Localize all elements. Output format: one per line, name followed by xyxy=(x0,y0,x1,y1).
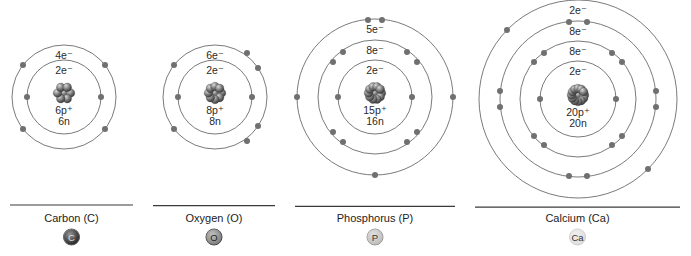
element-symbol-badge: Ca xyxy=(570,229,586,245)
nucleus-icon xyxy=(53,83,75,103)
shell-electron-count: 8e⁻ xyxy=(569,45,587,57)
neutron-count: 8n xyxy=(209,115,221,127)
element-symbol-badge: C xyxy=(64,229,80,245)
electron-dot xyxy=(335,94,341,100)
shell-electron-count: 2e⁻ xyxy=(569,65,587,77)
electron-dot xyxy=(255,123,261,129)
electron-dot xyxy=(541,50,547,56)
neutron-count: 6n xyxy=(58,115,70,127)
element-symbol-badge: O xyxy=(206,229,222,245)
element-symbol: Ca xyxy=(571,232,584,243)
electron-dot xyxy=(531,133,537,139)
bohr-models-diagram: 2e⁻4e⁻6p⁺6nCarbon (C)C2e⁻6e⁻8p⁺8nOxygen … xyxy=(0,0,691,256)
electron-dot xyxy=(372,172,378,178)
electron-dot xyxy=(244,138,250,144)
nucleus-icon xyxy=(567,84,589,106)
electron-dot xyxy=(102,62,108,68)
electron-dot xyxy=(175,94,181,100)
electron-dot xyxy=(566,173,572,179)
electron-dot xyxy=(404,49,410,55)
electron-dot xyxy=(619,133,625,139)
electron-dot xyxy=(645,166,651,172)
electron-dot xyxy=(98,94,104,100)
atom-p: 2e⁻8e⁻5e⁻15p⁺16nPhosphorus (P)P xyxy=(294,17,456,245)
shell-electron-count: 8e⁻ xyxy=(366,44,384,56)
element-name: Calcium (Ca) xyxy=(545,212,609,224)
shell-electron-count: 8e⁻ xyxy=(569,25,587,37)
shell-electron-count: 2e⁻ xyxy=(569,4,587,16)
electron-dot xyxy=(330,129,336,135)
electron-dot xyxy=(541,142,547,148)
electron-dot xyxy=(609,142,615,148)
electron-dot xyxy=(171,126,177,132)
atom-o: 2e⁻6e⁻8p⁺8nOxygen (O)O xyxy=(153,45,275,245)
element-symbol: O xyxy=(210,232,217,243)
shell-electron-count: 2e⁻ xyxy=(55,64,73,76)
electron-dot xyxy=(504,27,510,33)
electron-dot xyxy=(340,49,346,55)
nucleus-icon xyxy=(204,82,226,104)
element-symbol-badge: P xyxy=(367,229,383,245)
electron-dot xyxy=(414,129,420,135)
shell-electron-count: 2e⁻ xyxy=(206,64,224,76)
electron-dot xyxy=(584,173,590,179)
element-name: Phosphorus (P) xyxy=(337,212,413,224)
atom-c: 2e⁻4e⁻6p⁺6nCarbon (C)C xyxy=(10,45,133,245)
atom-ca: 2e⁻8e⁻8e⁻2e⁻20p⁺20nCalcium (Ca)Ca xyxy=(475,0,680,245)
electron-dot xyxy=(249,94,255,100)
electron-dot xyxy=(531,59,537,65)
shell-electron-count: 4e⁻ xyxy=(55,49,73,61)
electron-dot xyxy=(450,94,456,100)
electron-dot xyxy=(24,94,30,100)
electron-dot xyxy=(609,50,615,56)
nucleus-icon xyxy=(364,83,386,104)
electron-dot xyxy=(409,94,415,100)
element-name: Oxygen (O) xyxy=(186,212,243,224)
shell-electron-count: 5e⁻ xyxy=(366,23,384,35)
electron-dot xyxy=(619,59,625,65)
electron-dot xyxy=(414,59,420,65)
electron-dot xyxy=(404,139,410,145)
electron-dot xyxy=(497,88,503,94)
neutron-count: 16n xyxy=(366,115,384,127)
electron-dot xyxy=(497,104,503,110)
shell-electron-count: 6e⁻ xyxy=(206,49,224,61)
element-name: Carbon (C) xyxy=(44,212,98,224)
electron-dot xyxy=(330,59,336,65)
electron-dot xyxy=(294,94,300,100)
electron-dot xyxy=(340,139,346,145)
electron-dot xyxy=(102,126,108,132)
shell-electron-count: 2e⁻ xyxy=(366,64,384,76)
electron-dot xyxy=(613,96,619,102)
electron-dot xyxy=(20,62,26,68)
electron-dot xyxy=(244,50,250,56)
element-symbol: C xyxy=(68,232,75,243)
element-symbol: P xyxy=(372,232,378,243)
electron-dot xyxy=(537,96,543,102)
electron-dot xyxy=(20,126,26,132)
electron-dot xyxy=(653,104,659,110)
electron-dot xyxy=(171,62,177,68)
neutron-count: 20n xyxy=(569,117,587,129)
electron-dot xyxy=(255,65,261,71)
electron-dot xyxy=(653,88,659,94)
